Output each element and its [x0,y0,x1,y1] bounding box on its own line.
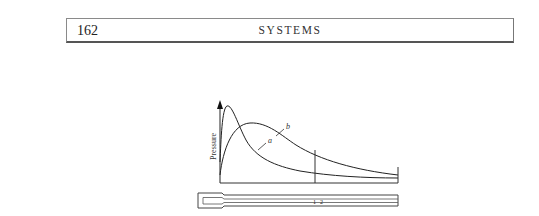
curve-label-a: a [268,136,272,145]
tube-inner-channel [203,198,398,205]
pressure-figure: Pressure a b 1 2 [0,0,539,216]
tube-label-1: 1 [313,199,316,205]
leader-line-a [258,143,266,150]
curve-b [220,123,398,175]
tube-label-2: 2 [320,199,323,205]
arrow-up-icon [217,100,223,109]
curve-a [220,106,398,178]
tube-outline [198,193,398,208]
y-axis-label: Pressure [209,132,218,160]
tube-diagram: 1 2 [198,193,398,208]
curve-label-b: b [286,122,290,131]
